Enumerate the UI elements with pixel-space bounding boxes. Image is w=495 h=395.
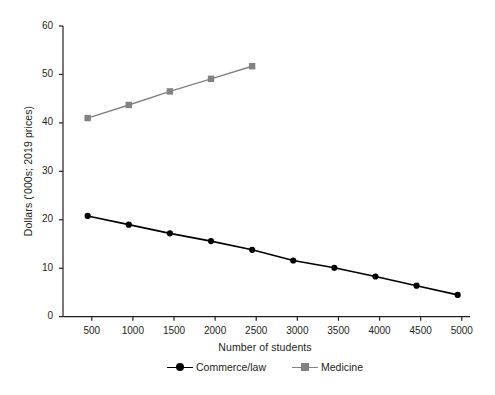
data-point-circle <box>372 273 378 279</box>
x-tick-label: 1500 <box>152 325 196 336</box>
data-point-circle <box>249 247 255 253</box>
data-point-circle <box>455 292 461 298</box>
legend-label-medicine: Medicine <box>321 361 363 373</box>
legend-swatch-commerce-law <box>167 362 193 373</box>
data-point-square <box>126 102 132 108</box>
y-tick-label: 50 <box>19 68 53 79</box>
x-tick-label: 4500 <box>399 325 443 336</box>
y-tick-label: 20 <box>19 213 53 224</box>
data-point-square <box>167 88 173 94</box>
x-tick-label: 3000 <box>275 325 319 336</box>
x-tick-label: 1000 <box>111 325 155 336</box>
legend-item-medicine[interactable]: Medicine <box>292 361 363 373</box>
legend-label-commerce-law: Commerce/law <box>196 361 266 373</box>
y-tick-label: 0 <box>19 310 53 321</box>
data-point-circle <box>167 230 173 236</box>
series-medicine <box>84 63 255 121</box>
y-tick-label: 40 <box>19 116 53 127</box>
x-tick-label: 4000 <box>358 325 402 336</box>
data-point-square <box>249 63 255 69</box>
x-tick-label: 5000 <box>440 325 484 336</box>
x-tick-label: 3500 <box>316 325 360 336</box>
data-point-circle <box>331 265 337 271</box>
legend-item-commerce-law[interactable]: Commerce/law <box>167 361 266 373</box>
chart-plot-area <box>0 0 495 395</box>
series-commerce-law <box>85 213 461 298</box>
data-point-circle <box>290 257 296 263</box>
x-axis-label: Number of students <box>63 341 467 353</box>
y-tick-label: 10 <box>19 262 53 273</box>
y-tick-label: 30 <box>19 165 53 176</box>
data-point-circle <box>85 213 91 219</box>
data-point-square <box>208 76 214 82</box>
data-point-circle <box>208 238 214 244</box>
series-line <box>88 216 458 295</box>
y-tick-label: 60 <box>19 20 53 31</box>
x-tick-label: 500 <box>70 325 114 336</box>
chart-legend: Commerce/law Medicine <box>63 361 467 373</box>
x-tick-label: 2500 <box>234 325 278 336</box>
x-tick-label: 2000 <box>193 325 237 336</box>
legend-swatch-medicine <box>292 362 318 373</box>
data-point-circle <box>126 222 132 228</box>
data-point-square <box>84 115 90 121</box>
data-point-circle <box>413 283 419 289</box>
chart-figure: Dollars ('000s; 2019 prices) Number of s… <box>0 0 495 395</box>
series-layer <box>84 63 460 298</box>
